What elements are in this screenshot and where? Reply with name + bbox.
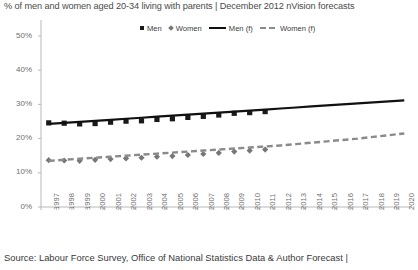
data-point-marker	[169, 153, 175, 159]
x-tick-label: 1997	[52, 193, 61, 210]
x-tick-label: 2015	[330, 193, 339, 210]
square-marker-icon	[140, 26, 144, 30]
legend-item-men-forecast[interactable]: Men (f)	[209, 24, 253, 33]
legend-item-women-forecast[interactable]: Women (f)	[260, 24, 315, 33]
x-tick-label: 2012	[284, 193, 293, 210]
x-tick-label: 2010	[253, 193, 262, 210]
x-tick-label: 2019	[392, 193, 401, 210]
x-tick-label: 2009	[237, 193, 246, 210]
chart-title: % of men and women aged 20-34 living wit…	[4, 1, 418, 11]
series-line-men-f	[49, 100, 405, 124]
x-tick-label: 2008	[222, 193, 231, 210]
data-point-marker	[139, 118, 144, 123]
x-tick-label: 2020	[407, 193, 416, 210]
y-tick-label: 30%	[2, 99, 32, 108]
x-tick-label: 1998	[67, 193, 76, 210]
y-tick-label: 0%	[2, 202, 32, 211]
series-line-women-f	[49, 133, 405, 160]
x-tick-label: 2007	[207, 193, 216, 210]
dashed-line-icon	[260, 27, 277, 30]
y-tick-label: 50%	[2, 31, 32, 40]
chart-container: % of men and women aged 20-34 living wit…	[0, 0, 418, 270]
x-tick-label: 2000	[98, 193, 107, 210]
legend-label-men: Men	[147, 24, 162, 33]
solid-line-icon	[209, 27, 226, 30]
x-tick-label: 2014	[315, 193, 324, 210]
x-tick-label: 2017	[361, 193, 370, 210]
chart-source-note: Source: Labour Force Survey, Office of N…	[4, 252, 348, 263]
x-tick-label: 2001	[114, 193, 123, 210]
x-tick-label: 2005	[176, 193, 185, 210]
x-tick-label: 2011	[268, 194, 277, 210]
data-point-marker	[170, 116, 175, 121]
x-tick-label: 2002	[129, 193, 138, 210]
diamond-marker-icon	[168, 25, 174, 31]
legend-item-women[interactable]: Women	[169, 24, 202, 33]
x-tick-label: 2016	[346, 193, 355, 210]
legend-label-men-forecast: Men (f)	[229, 24, 253, 33]
legend-label-women-forecast: Women (f)	[280, 24, 315, 33]
x-tick-label: 2013	[299, 193, 308, 210]
y-tick-label: 40%	[2, 65, 32, 74]
x-tick-label: 2004	[160, 193, 169, 210]
x-tick-label: 1999	[83, 193, 92, 210]
x-tick-label: 2006	[191, 193, 200, 210]
chart-legend: Men Women Men (f) Women (f)	[140, 22, 315, 34]
legend-label-women: Women	[176, 24, 202, 33]
plot-area	[0, 0, 418, 270]
y-tick-label: 20%	[2, 133, 32, 142]
data-point-marker	[216, 150, 222, 156]
x-tick-label: 2018	[377, 193, 386, 210]
legend-item-men[interactable]: Men	[140, 24, 162, 33]
x-tick-label: 2003	[145, 193, 154, 210]
y-tick-label: 10%	[2, 167, 32, 176]
